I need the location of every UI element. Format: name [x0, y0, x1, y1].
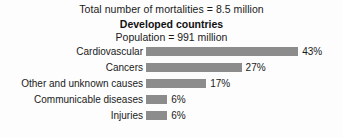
chart-header: Total number of mortalities = 8.5 millio…	[0, 0, 343, 44]
bar-value-label: 43%	[302, 47, 322, 57]
bar-value-label: 6%	[171, 95, 185, 105]
bar-row: Communicable diseases6%	[0, 95, 343, 104]
bar-track: 27%	[146, 63, 343, 72]
bar-row: Other and unknown causes17%	[0, 79, 343, 88]
bar-category-label: Injuries	[0, 111, 146, 121]
bar-row: Cardiovascular43%	[0, 47, 343, 56]
bar	[146, 63, 242, 72]
bar-value-label: 27%	[246, 63, 266, 73]
chart-population-note: Population = 991 million	[0, 31, 343, 44]
chart-subtitle-block: Developed countries Population = 991 mil…	[0, 18, 343, 44]
bar-track: 17%	[146, 79, 343, 88]
mortality-bar-chart: Total number of mortalities = 8.5 millio…	[0, 0, 343, 138]
chart-title: Total number of mortalities = 8.5 millio…	[0, 2, 343, 16]
bar-value-label: 17%	[210, 79, 230, 89]
bar	[146, 79, 206, 88]
bar-category-label: Other and unknown causes	[0, 79, 146, 89]
bar-track: 43%	[146, 47, 343, 56]
bar	[146, 47, 298, 56]
bar-track: 6%	[146, 95, 343, 104]
bar	[146, 95, 167, 104]
bar-category-label: Cardiovascular	[0, 47, 146, 57]
chart-subtitle: Developed countries	[0, 18, 343, 31]
bar-category-label: Cancers	[0, 63, 146, 73]
bar-category-label: Communicable diseases	[0, 95, 146, 105]
bar-row: Injuries6%	[0, 111, 343, 120]
bar-row: Cancers27%	[0, 63, 343, 72]
bar-value-label: 6%	[171, 111, 185, 121]
plot-area: Cardiovascular43%Cancers27%Other and unk…	[0, 47, 343, 120]
bar	[146, 111, 167, 120]
bar-track: 6%	[146, 111, 343, 120]
